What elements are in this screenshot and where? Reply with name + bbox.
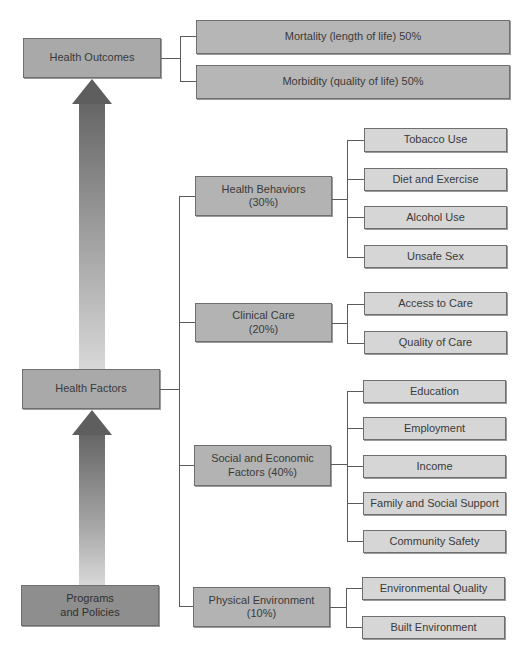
factor-physical-environment-box: Physical Environment (10%) <box>193 587 330 627</box>
arrow-head <box>72 79 112 104</box>
outcome-mortality-box: Mortality (length of life) 50% <box>196 20 510 54</box>
connector-line <box>346 588 363 589</box>
connector-line <box>347 343 364 344</box>
programs-and-policies-box: Programs and Policies <box>21 585 159 626</box>
health-outcomes-label: Health Outcomes <box>50 51 135 64</box>
sub-item-label: Diet and Exercise <box>392 173 478 186</box>
connector-line <box>346 588 347 627</box>
connector-line <box>346 627 363 628</box>
sub-item-label: Quality of Care <box>399 336 472 349</box>
connector-line <box>332 323 347 324</box>
social-employment-box: Employment <box>363 417 506 440</box>
connector-line <box>179 322 195 323</box>
arrow-shaft <box>79 104 105 369</box>
programs-and-policies-label: Programs and Policies <box>60 592 119 619</box>
sub-item-label: Unsafe Sex <box>407 250 464 263</box>
connector-line <box>347 503 363 504</box>
social-family-support-box: Family and Social Support <box>363 492 506 515</box>
behavior-tobacco-use-box: Tobacco Use <box>364 128 507 152</box>
connector-line <box>347 257 364 258</box>
connector-line <box>347 217 364 218</box>
arrow-head <box>72 410 112 435</box>
connector-line <box>331 464 347 465</box>
connector-line <box>347 391 363 392</box>
sub-item-label: Family and Social Support <box>370 497 498 510</box>
social-community-safety-box: Community Safety <box>363 530 506 553</box>
physical-environmental-quality-box: Environmental Quality <box>362 577 505 600</box>
connector-line <box>160 389 179 390</box>
connector-line <box>347 179 364 180</box>
connector-line <box>180 36 181 81</box>
connector-line <box>347 541 363 542</box>
connector-line <box>347 428 363 429</box>
behavior-unsafe-sex-box: Unsafe Sex <box>364 245 507 268</box>
behavior-alcohol-use-box: Alcohol Use <box>364 206 507 229</box>
clinical-quality-of-care-box: Quality of Care <box>364 331 507 354</box>
clinical-access-to-care-box: Access to Care <box>364 292 507 315</box>
connector-line <box>179 465 194 466</box>
health-outcomes-box: Health Outcomes <box>23 38 161 78</box>
sub-item-label: Access to Care <box>398 297 473 310</box>
connector-line <box>347 140 364 141</box>
connector-line <box>179 196 180 607</box>
behavior-diet-exercise-box: Diet and Exercise <box>364 168 507 191</box>
sub-item-label: Community Safety <box>390 535 480 548</box>
connector-line <box>332 199 347 200</box>
sub-item-label: Education <box>410 385 459 398</box>
sub-item-label: Income <box>416 460 452 473</box>
connector-line <box>161 58 180 59</box>
factor-clinical-care-box: Clinical Care (20%) <box>195 303 332 342</box>
connector-line <box>179 606 193 607</box>
connector-line <box>347 140 348 257</box>
sub-item-label: Built Environment <box>390 621 476 634</box>
physical-built-environment-box: Built Environment <box>362 616 505 639</box>
health-factors-box: Health Factors <box>22 369 160 409</box>
social-education-box: Education <box>363 380 506 403</box>
social-income-box: Income <box>363 455 506 478</box>
sub-item-label: Employment <box>404 422 465 435</box>
connector-line <box>330 607 346 608</box>
factor-label: Clinical Care (20%) <box>232 309 294 336</box>
connector-line <box>347 304 364 305</box>
connector-line <box>180 36 196 37</box>
outcome-morbidity-box: Morbidity (quality of life) 50% <box>196 65 510 99</box>
connector-line <box>179 196 195 197</box>
factor-label: Social and Economic Factors (40%) <box>211 452 314 479</box>
connector-line <box>347 466 363 467</box>
connector-line <box>347 304 348 343</box>
factor-label: Health Behaviors (30%) <box>222 183 306 210</box>
factor-label: Physical Environment (10%) <box>209 594 315 621</box>
sub-item-label: Alcohol Use <box>406 211 465 224</box>
arrow-shaft <box>79 435 105 585</box>
sub-item-label: Environmental Quality <box>380 582 488 595</box>
outcome-label: Morbidity (quality of life) 50% <box>282 75 423 88</box>
factor-social-economic-box: Social and Economic Factors (40%) <box>194 445 331 486</box>
health-factors-label: Health Factors <box>55 382 127 395</box>
connector-line <box>180 81 196 82</box>
outcome-label: Mortality (length of life) 50% <box>285 30 421 43</box>
sub-item-label: Tobacco Use <box>404 133 468 146</box>
factor-health-behaviors-box: Health Behaviors (30%) <box>195 176 332 216</box>
